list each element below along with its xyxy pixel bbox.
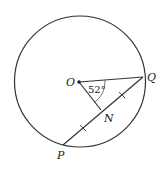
label-n: N (103, 112, 114, 125)
radius-oq (79, 77, 143, 82)
label-p: P (56, 149, 65, 162)
center-point-o (77, 80, 81, 84)
label-q: Q (147, 71, 156, 84)
angle-label: 52° (88, 84, 106, 95)
geometry-diagram: O Q P N 52° (0, 0, 165, 172)
label-o: O (66, 76, 75, 89)
